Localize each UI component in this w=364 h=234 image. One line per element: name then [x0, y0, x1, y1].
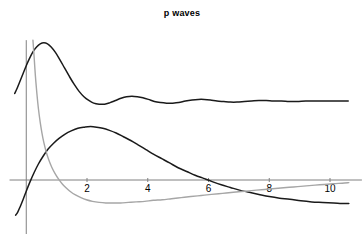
x-tick-label: 6	[206, 183, 212, 194]
data-series-group	[15, 40, 349, 215]
chart-figure: p waves 246810 r	[0, 0, 364, 234]
upper-oscillating-curve	[15, 43, 349, 105]
plot-area: 246810 r	[0, 0, 364, 234]
x-tick-label: 2	[84, 183, 90, 194]
lower-dark-curve	[16, 127, 349, 216]
x-tick-label: 4	[145, 183, 151, 194]
gray-decaying-curve	[33, 40, 349, 203]
axes-group	[10, 40, 362, 234]
